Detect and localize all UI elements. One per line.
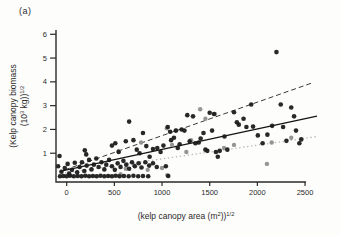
data-point-gray <box>232 143 236 147</box>
data-point-dark <box>127 166 132 171</box>
data-point-dark <box>77 165 82 170</box>
data-point-dark <box>154 165 159 170</box>
kelp-scatter-figure: (a) 05001000150020002500123456(kelp cano… <box>0 0 341 236</box>
data-point-dark <box>130 160 135 165</box>
y-tick-label: 4 <box>43 77 47 86</box>
data-point-gray <box>269 140 273 144</box>
data-point-dark <box>82 169 87 174</box>
data-point-dark <box>281 125 286 130</box>
data-point-dark <box>166 174 171 179</box>
data-point-dark <box>151 147 156 152</box>
data-point-dark <box>110 164 115 169</box>
data-point-dark <box>134 147 139 152</box>
x-tick-label: 1000 <box>154 188 171 197</box>
data-point-dark <box>151 161 156 166</box>
data-point-dark <box>299 137 304 142</box>
data-point-dark <box>89 167 94 172</box>
data-point-dark <box>198 136 203 141</box>
data-point-dark <box>236 122 241 127</box>
data-point-dark <box>284 139 289 144</box>
data-point-dark <box>256 133 261 138</box>
data-point-dark <box>124 162 129 167</box>
data-point-dark <box>121 159 126 164</box>
y-tick-label: 6 <box>43 30 47 39</box>
data-point-dark <box>244 125 249 130</box>
data-point-dark <box>294 128 299 133</box>
data-point-dark <box>104 162 109 167</box>
data-point-gray <box>139 140 143 144</box>
data-point-dark <box>80 160 85 165</box>
x-axis-label: (kelp canopy area (m2))1/2 <box>138 211 235 221</box>
data-point-dark <box>113 141 118 146</box>
data-point-dark <box>82 148 87 153</box>
data-point-dark <box>217 149 222 154</box>
x-tick-label: 0 <box>65 188 69 197</box>
data-point-dark <box>147 163 152 168</box>
axes-spine <box>56 30 306 182</box>
data-point-gray <box>265 162 269 166</box>
data-point-dark <box>72 160 77 165</box>
data-point-dark <box>65 162 70 167</box>
data-point-dark <box>270 124 275 129</box>
y-tick-label: 3 <box>43 101 47 110</box>
data-point-dark <box>144 144 149 149</box>
x-tick-label: 2500 <box>297 188 314 197</box>
data-point-dark <box>212 112 217 117</box>
data-point-dark <box>84 163 89 168</box>
data-point-dark <box>165 125 170 130</box>
data-point-dark <box>216 154 221 159</box>
y-axis-label-line2: (103 kg))1/2 <box>19 86 29 127</box>
data-point-dark <box>147 154 152 159</box>
data-point-dark <box>185 113 190 118</box>
data-point-dark <box>116 150 121 155</box>
data-point-dark <box>146 174 151 179</box>
x-tick-label: 500 <box>108 188 121 197</box>
data-point-dark <box>196 140 201 145</box>
data-point-gray <box>289 136 293 140</box>
data-point-dark <box>210 128 215 133</box>
data-point-dark <box>182 128 187 133</box>
data-point-dark <box>249 102 254 107</box>
y-axis-label-line1: (Kelp canopy biomass <box>8 64 18 148</box>
data-point-dark <box>155 146 160 151</box>
data-point-dark <box>123 139 128 144</box>
data-point-dark <box>67 171 72 176</box>
data-point-dark <box>278 102 283 107</box>
data-point-dark <box>222 134 227 139</box>
data-point-dark <box>207 110 212 115</box>
data-point-dark <box>164 164 169 169</box>
data-point-gray <box>184 150 188 154</box>
data-point-dark <box>136 161 141 166</box>
data-point-gray <box>146 168 150 172</box>
data-point-dark <box>174 128 179 133</box>
data-point-dark <box>102 167 107 172</box>
data-point-dark <box>177 142 182 147</box>
data-point-dark <box>122 174 127 179</box>
data-point-dark <box>57 154 62 159</box>
data-point-dark <box>292 114 297 119</box>
data-point-dark <box>107 158 112 163</box>
data-point-dark <box>113 168 118 173</box>
data-point-dark <box>205 149 210 154</box>
data-point-dark <box>94 156 99 161</box>
data-point-dark <box>99 160 104 165</box>
data-point-dark <box>241 116 246 121</box>
data-point-dark <box>201 131 206 136</box>
scatter-plot: 05001000150020002500123456(kelp canopy a… <box>0 0 341 236</box>
data-point-dark <box>260 141 265 146</box>
data-point-dark <box>141 131 146 136</box>
data-point-dark <box>143 160 148 165</box>
data-point-dark <box>172 135 177 140</box>
data-point-dark <box>187 139 192 144</box>
data-point-dark <box>84 152 89 157</box>
data-point-dark <box>92 162 97 167</box>
data-point-dark <box>59 169 64 174</box>
data-point-dark <box>62 166 67 171</box>
data-point-dark <box>274 50 279 55</box>
data-point-dark <box>87 158 92 163</box>
data-point-dark <box>131 138 136 143</box>
data-point-dark <box>115 161 120 166</box>
data-point-dark <box>96 165 101 170</box>
data-point-gray <box>198 107 202 111</box>
data-point-dark <box>232 110 237 115</box>
